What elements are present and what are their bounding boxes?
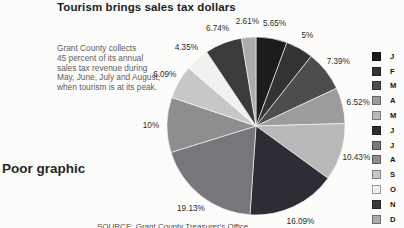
legend-swatch [372,170,381,179]
legend-swatch [372,96,381,105]
legend-label: S [390,170,395,179]
legend-item: J [372,138,396,153]
slice-percentage-label: 2.61% [236,17,259,26]
legend-swatch [372,81,381,90]
slice-percentage-label: 10% [143,121,159,130]
legend-label: J [390,52,394,61]
slice-percentage-label: 5% [301,31,313,40]
legend-label: M [390,111,396,120]
legend-item: D [372,212,396,227]
slice-percentage-label: 6.52% [347,98,370,107]
legend-label: A [390,96,395,105]
legend-swatch [372,185,381,194]
legend-item: A [372,93,396,108]
legend-swatch [372,215,381,224]
legend-item: S [372,167,396,182]
legend-swatch [372,200,381,209]
legend-item: M [372,79,396,94]
legend-item: A [372,153,396,168]
slice-percentage-label: 19.13% [177,204,205,213]
slice-percentage-label: 16.09% [287,217,315,226]
chart-legend: JFMAMJJASOND [372,49,396,227]
legend-swatch [372,141,381,150]
legend-label: D [390,215,395,224]
slice-percentage-label: 6.09% [153,70,176,79]
legend-item: F [372,64,396,79]
legend-label: N [390,200,395,209]
legend-item: O [372,182,396,197]
pie-chart: 5.65%5%7.39%6.52%10.43%16.09%19.13%10%6.… [0,0,404,228]
slice-percentage-label: 10.43% [342,153,370,162]
legend-label: M [390,81,396,90]
slice-percentage-label: 4.35% [175,43,198,52]
legend-swatch [372,52,381,61]
source-line: SOURCE: Grant County Treasurer's Office [97,222,248,228]
legend-item: M [372,108,396,123]
slice-percentage-label: 5.65% [263,19,286,28]
legend-label: O [390,185,396,194]
legend-swatch [372,111,381,120]
legend-swatch [372,67,381,76]
legend-label: J [390,126,394,135]
legend-swatch [372,155,381,164]
legend-item: N [372,197,396,212]
legend-label: J [390,141,394,150]
slice-percentage-label: 6.74% [206,24,229,33]
legend-label: A [390,155,395,164]
legend-swatch [372,126,381,135]
legend-label: F [390,67,395,76]
legend-item: J [372,123,396,138]
scanned-figure-page: Tourism brings sales tax dollars Grant C… [0,0,404,228]
slice-percentage-label: 7.39% [327,57,350,66]
legend-item: J [372,49,396,64]
